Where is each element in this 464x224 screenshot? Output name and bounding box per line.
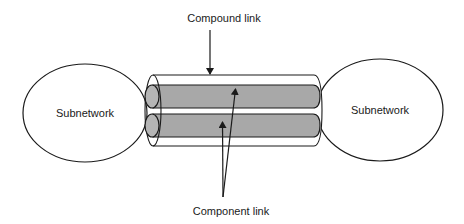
- compound-link-callout: Compound link: [187, 12, 261, 74]
- subnetwork-right: Subnetwork: [317, 59, 443, 161]
- component-link-arrow-lower: [223, 122, 224, 197]
- component-link-label: Component link: [193, 205, 270, 217]
- compound-link-label: Compound link: [187, 12, 261, 24]
- subnetwork-right-label: Subnetwork: [351, 104, 410, 116]
- compound-link-diagram: Subnetwork Subnetwork Compound link Comp…: [0, 0, 464, 224]
- subnetwork-left-label: Subnetwork: [56, 107, 115, 119]
- component-link-lower: [153, 114, 320, 137]
- component-link-upper: [153, 85, 320, 108]
- component-link-upper-cap: [145, 85, 159, 108]
- subnetwork-left: Subnetwork: [23, 64, 147, 162]
- component-link-lower-cap: [145, 114, 159, 137]
